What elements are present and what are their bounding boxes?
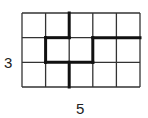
height-label: 3 bbox=[4, 54, 12, 71]
width-label: 5 bbox=[76, 100, 84, 117]
grid-diagram bbox=[0, 0, 148, 118]
